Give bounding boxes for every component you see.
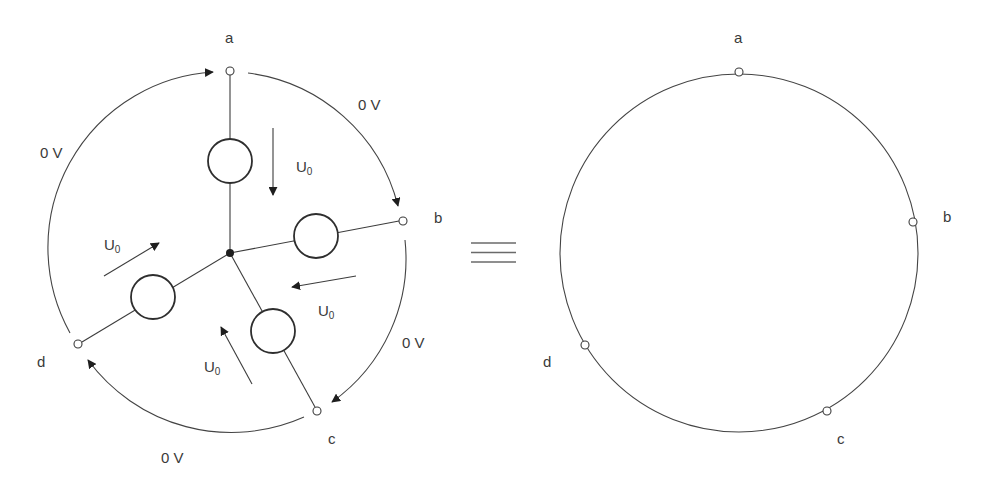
terminal-d — [74, 340, 82, 348]
terminal-b — [399, 217, 407, 225]
right-node-label-c: c — [837, 430, 845, 447]
arc-label-d-a: 0 V — [40, 144, 63, 161]
u0-label-d: U0 — [104, 236, 121, 255]
arc-b-to-c — [332, 240, 406, 402]
arc-label-b-c: 0 V — [402, 334, 425, 351]
u0-label-b: U0 — [318, 302, 335, 321]
right-terminal-b — [909, 218, 917, 226]
right-ring-circuit: a b c d — [543, 29, 951, 447]
arc-c-to-d — [88, 360, 304, 432]
voltage-source-d — [131, 275, 175, 319]
terminal-c — [313, 407, 321, 415]
terminal-a — [226, 67, 234, 75]
right-terminal-a — [735, 68, 743, 76]
u0-label-c: U0 — [204, 358, 221, 377]
u0-label-a: U0 — [296, 158, 313, 177]
left-node-label-d: d — [37, 353, 45, 370]
voltage-source-a — [208, 139, 252, 183]
arrow-u0-b — [292, 276, 356, 287]
voltage-source-b — [294, 214, 338, 258]
equivalent-circuit-diagram: a b c d U0 U0 U0 U0 0 V 0 V 0 V 0 V — [0, 0, 984, 483]
right-terminal-c — [823, 407, 831, 415]
right-node-label-b: b — [943, 208, 951, 225]
left-node-label-a: a — [225, 29, 234, 46]
left-star-circuit: a b c d U0 U0 U0 U0 0 V 0 V 0 V 0 V — [37, 29, 442, 466]
equivalence-symbol — [471, 243, 516, 262]
arc-label-c-d: 0 V — [161, 449, 184, 466]
right-terminal-d — [581, 341, 589, 349]
left-node-label-b: b — [434, 209, 442, 226]
star-wires — [82, 75, 399, 407]
right-node-label-a: a — [734, 29, 743, 46]
right-node-label-d: d — [543, 353, 551, 370]
left-node-label-c: c — [328, 430, 336, 447]
arrow-u0-c — [221, 327, 252, 384]
equivalent-ring-wire — [560, 74, 918, 432]
voltage-source-c — [251, 309, 295, 353]
star-center-node — [226, 249, 234, 257]
arc-label-a-b: 0 V — [358, 96, 381, 113]
arc-a-to-b — [248, 73, 398, 206]
